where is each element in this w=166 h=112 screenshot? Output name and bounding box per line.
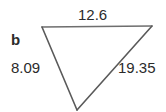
side-length-label-right: 19.35	[118, 60, 156, 75]
triangle-side-top	[42, 26, 152, 27]
side-length-label-left: 8.09	[11, 60, 40, 75]
side-length-label-top: 12.6	[78, 7, 107, 22]
shape-name-label: b	[11, 32, 20, 47]
triangle-side-left	[42, 27, 77, 110]
triangle-figure: b 12.6 8.09 19.35	[0, 0, 166, 112]
